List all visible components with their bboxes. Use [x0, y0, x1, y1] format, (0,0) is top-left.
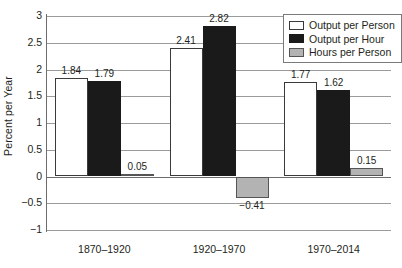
bar — [284, 82, 317, 177]
y-axis-tick-label: 0 — [16, 171, 42, 182]
x-axis-category-label: 1920–1970 — [162, 243, 277, 255]
legend-label: Output per Hour — [309, 33, 384, 45]
legend-item[interactable]: Output per Person — [289, 19, 395, 32]
y-axis-tick-label: 2 — [16, 64, 42, 75]
legend-label: Hours per Person — [309, 46, 391, 58]
legend: Output per PersonOutput per HourHours pe… — [283, 14, 402, 63]
bar — [121, 174, 154, 177]
x-axis-category-label: 1970–2014 — [276, 243, 391, 255]
y-axis-tick-label: −0.5 — [16, 197, 42, 208]
y-axis-tick-label: 3 — [16, 10, 42, 21]
gridline — [47, 203, 391, 204]
y-axis-tick-label: 2.5 — [16, 37, 42, 48]
y-axis-title-label: Percent per Year — [2, 76, 14, 156]
legend-swatch-icon — [289, 48, 304, 57]
y-axis-tick-label: 0.5 — [16, 144, 42, 155]
bar — [350, 168, 383, 176]
bar — [236, 177, 269, 199]
y-axis-tick-label: 1 — [16, 117, 42, 128]
gridline — [47, 230, 391, 231]
x-axis-category-label: 1870–1920 — [47, 243, 162, 255]
bar-chart: Percent per Year 32.521.510.50−0.5−1 1.8… — [0, 0, 402, 268]
legend-item[interactable]: Hours per Person — [289, 46, 395, 59]
legend-swatch-icon — [289, 34, 304, 43]
bar — [203, 26, 236, 177]
legend-label: Output per Person — [309, 19, 395, 31]
bar — [170, 48, 203, 177]
bar-value-label: 0.05 — [115, 161, 160, 172]
y-axis-tick-labels: 32.521.510.50−0.5−1 — [14, 16, 42, 230]
legend-item[interactable]: Output per Hour — [289, 32, 395, 45]
gridline — [47, 177, 391, 178]
bar-value-label: 1.79 — [82, 68, 127, 79]
legend-swatch-icon — [289, 21, 304, 30]
bar-value-label: −0.41 — [230, 200, 275, 211]
bar-value-label: 1.62 — [311, 77, 356, 88]
y-axis-tick-label: 1.5 — [16, 90, 42, 101]
bar — [55, 78, 88, 176]
y-axis-tick-label: −1 — [16, 224, 42, 235]
bar-value-label: 2.82 — [197, 13, 242, 24]
bar-value-label: 0.15 — [344, 155, 389, 166]
